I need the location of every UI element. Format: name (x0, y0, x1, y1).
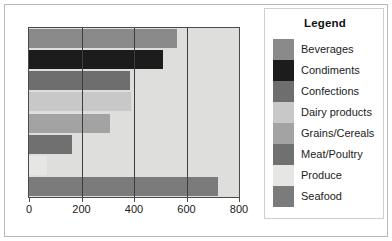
bar (29, 50, 163, 69)
legend-item: Dairy products (273, 102, 385, 123)
legend-swatch (273, 144, 294, 165)
x-tick-label: 600 (177, 202, 195, 216)
bar (29, 29, 177, 48)
chart-figure: 0200400600800 Legend BeveragesCondiments… (0, 0, 392, 241)
bar (29, 156, 47, 175)
plot-region (28, 27, 240, 198)
legend-item: Beverages (273, 39, 385, 60)
legend-item-label: Confections (301, 84, 359, 98)
legend-item-label: Condiments (301, 63, 360, 77)
legend-item-label: Produce (301, 168, 342, 182)
x-tick-label: 800 (230, 202, 248, 216)
legend-swatch (273, 102, 294, 123)
x-tick-label: 400 (125, 202, 143, 216)
legend-swatch (273, 165, 294, 186)
legend-item: Condiments (273, 60, 385, 81)
legend-item: Produce (273, 165, 385, 186)
bar (29, 135, 72, 154)
legend-swatch (273, 123, 294, 144)
legend-item-label: Grains/Cereals (301, 126, 374, 140)
bar-series (29, 28, 239, 197)
legend-item: Seafood (273, 186, 385, 207)
bar (29, 114, 110, 133)
bar (29, 71, 130, 90)
legend-swatch (273, 81, 294, 102)
legend-item-label: Beverages (301, 42, 354, 56)
bar (29, 92, 131, 111)
legend-item-label: Seafood (301, 189, 342, 203)
x-tick-label: 200 (72, 202, 90, 216)
x-tick-label: 0 (26, 202, 32, 216)
legend-item: Grains/Cereals (273, 123, 385, 144)
legend-panel: Legend BeveragesCondimentsConfectionsDai… (264, 8, 384, 219)
legend-swatch (273, 186, 294, 207)
legend-swatch (273, 39, 294, 60)
legend-item: Confections (273, 81, 385, 102)
legend-item-list: BeveragesCondimentsConfectionsDairy prod… (273, 39, 385, 207)
bar (29, 177, 218, 196)
legend-item-label: Dairy products (301, 105, 372, 119)
legend-item-label: Meat/Poultry (301, 147, 363, 161)
legend-item: Meat/Poultry (273, 144, 385, 165)
legend-swatch (273, 60, 294, 81)
legend-title: Legend (265, 17, 385, 29)
